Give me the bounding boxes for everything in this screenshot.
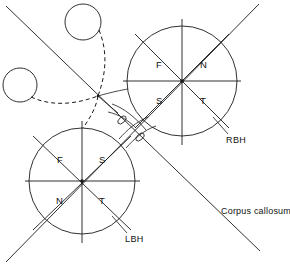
chiasm-marker-ellipse-2 [134,132,145,143]
upper-eye-dashed-path [98,30,105,96]
upper-eye-circle [65,4,101,40]
rbh-quadrant-label-upper-left: F [156,60,162,70]
left-eye-dashed-path [31,96,98,103]
chiasm-marker-ellipse-1 [116,115,127,126]
lbh-label: LBH [125,235,144,244]
rbh-label: RBH [226,136,246,145]
lbh-quadrant-label-lower-left: N [56,196,63,206]
chiasm-connector-a [108,112,136,128]
rbh-quadrant-label-upper-right: N [200,60,207,70]
lower-tract-line [98,96,118,113]
upper-tract-line [98,89,128,96]
right-hemisphere-circle-group [123,19,241,145]
lbh-quadrant-label-lower-right: T [99,196,105,206]
chiasm-dashed-continuation [83,96,98,128]
eye-group [3,4,105,128]
diagram-svg [0,0,290,268]
lbh-quadrant-label-upper-left: F [57,155,63,165]
rbh-center-dot [180,79,184,83]
figure-canvas: F N S T F S N T RBH LBH Corpus callosum [0,0,290,268]
corpus-callosum-label: Corpus callosum [221,207,290,216]
lbh-center-dot [80,179,84,183]
rbh-quadrant-label-lower-left: S [156,96,163,106]
lbh-quadrant-label-upper-right: S [99,155,106,165]
rbh-quadrant-label-lower-right: T [200,96,206,106]
